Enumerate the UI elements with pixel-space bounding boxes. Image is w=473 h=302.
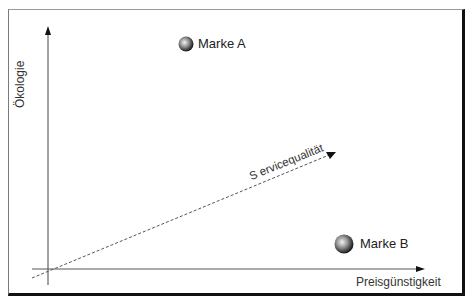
x-axis-label: Preisgünstigkeit <box>356 275 441 289</box>
service-quality-axis <box>32 152 336 278</box>
marke-a-bubble-icon <box>179 37 194 52</box>
marke-b-label: Marke B <box>360 236 408 251</box>
marke-b-bubble-icon <box>335 235 354 254</box>
y-axis-label: Ökologie <box>13 61 27 108</box>
y-axis <box>45 26 51 285</box>
x-axis <box>32 266 425 272</box>
marke-a-label: Marke A <box>198 36 246 51</box>
